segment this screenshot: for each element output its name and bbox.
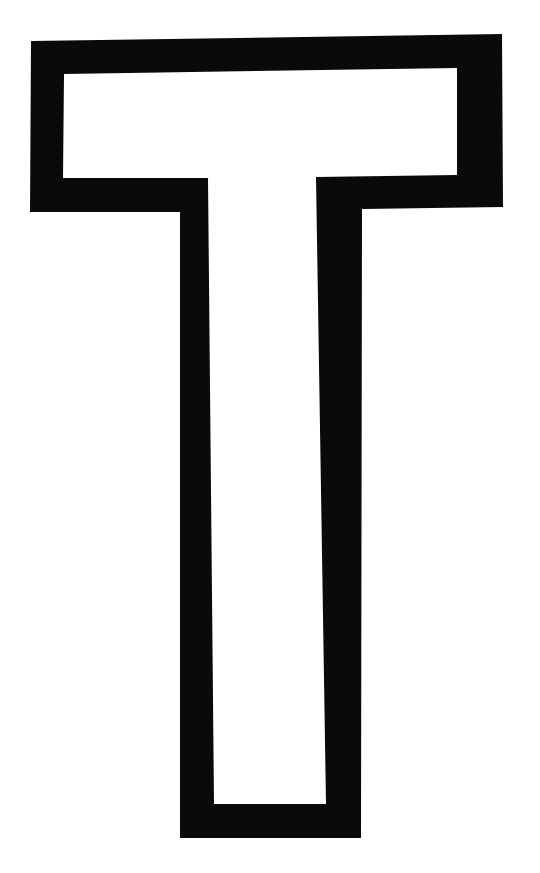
letter-t-graphic — [0, 0, 540, 873]
letter-t-outline — [30, 34, 503, 838]
letter-t-figure: T — [0, 0, 540, 873]
